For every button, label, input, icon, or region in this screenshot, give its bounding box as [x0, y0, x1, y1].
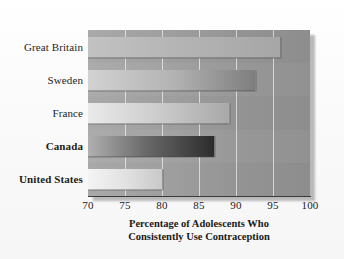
y-axis-label-canada: Canada: [0, 140, 83, 152]
x-tick-label-90: 90: [221, 199, 251, 211]
y-axis-label-united-states: United States: [0, 173, 83, 185]
x-axis-line: [88, 196, 311, 197]
y-axis-label-france: France: [0, 107, 83, 119]
x-tick-label-75: 75: [110, 199, 140, 211]
x-tick-label-70: 70: [73, 199, 103, 211]
y-axis-category-labels: Great Britain Sweden France Canada Unite…: [0, 0, 83, 200]
bar-sweden: [88, 70, 256, 91]
bar-canada: [88, 136, 215, 157]
plot-area: [88, 30, 310, 196]
bar-france: [88, 103, 230, 124]
x-axis-title-line-1: Percentage of Adolescents Who: [88, 217, 310, 230]
y-axis-label-sweden: Sweden: [0, 74, 83, 86]
bar-united-states: [88, 169, 163, 190]
bar-great-britain: [88, 37, 281, 58]
x-axis-title-line-2: Consistently Use Contraception: [88, 230, 310, 243]
x-tick-label-100: 100: [295, 199, 325, 211]
chart-figure: Great Britain Sweden France Canada Unite…: [0, 0, 344, 259]
x-tick-label-95: 95: [258, 199, 288, 211]
y-axis-label-great-britain: Great Britain: [0, 41, 83, 53]
x-tick-label-80: 80: [147, 199, 177, 211]
x-tick-label-85: 85: [184, 199, 214, 211]
x-axis-title: Percentage of Adolescents Who Consistent…: [88, 217, 310, 243]
